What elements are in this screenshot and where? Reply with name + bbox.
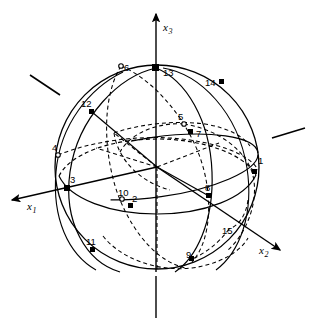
- point-label-9: 9: [186, 249, 191, 260]
- axis-x2-subscript: 2: [264, 250, 268, 259]
- point-marker-1: [252, 169, 257, 174]
- diagram-canvas: x1 x2 x3 1: [0, 0, 310, 328]
- upper-left-tick: [30, 75, 60, 95]
- meridian-right: [163, 68, 249, 270]
- point-marker-8: [206, 193, 211, 198]
- point-label-8: 8: [205, 182, 210, 193]
- point-marker-3: [64, 185, 70, 191]
- axis-x1-label: x: [26, 200, 32, 212]
- point-label-7: 7: [196, 128, 201, 139]
- point-label-4: 4: [52, 142, 57, 153]
- point-marker-4: [56, 153, 61, 158]
- sphere-diagram: x1 x2 x3 1: [0, 0, 310, 328]
- svg-text:x1: x1: [26, 200, 36, 215]
- axis-x3-label: x: [162, 21, 168, 33]
- point-marker-12: [89, 109, 94, 114]
- axis-x2: [157, 167, 280, 250]
- point-marker-5: [182, 122, 187, 127]
- svg-text:x3: x3: [162, 21, 172, 36]
- point-label-12: 12: [81, 98, 92, 109]
- point-label-15: 15: [222, 225, 233, 236]
- point-label-6: 6: [124, 62, 129, 73]
- point-label-13: 13: [163, 67, 174, 78]
- axis-x3-subscript: 3: [167, 27, 172, 36]
- right-tick: [272, 128, 305, 138]
- tick-marks: [30, 75, 305, 138]
- point-label-14: 14: [205, 77, 216, 88]
- axis-x1-subscript: 1: [32, 206, 36, 215]
- point-label-3: 3: [70, 174, 75, 185]
- point-label-5: 5: [178, 111, 183, 122]
- point-label-2: 2: [132, 193, 137, 204]
- point-marker-7: [188, 129, 193, 134]
- point-label-11: 11: [86, 236, 96, 247]
- point-marker-11: [90, 247, 95, 252]
- point-marker-6: [119, 64, 124, 69]
- point-label-10: 10: [118, 187, 129, 198]
- point-label-1: 1: [258, 155, 263, 166]
- point-marker-13: [152, 64, 159, 71]
- svg-text:x2: x2: [258, 244, 268, 259]
- axis-x2-label: x: [258, 244, 264, 256]
- point-marker-14: [219, 79, 224, 84]
